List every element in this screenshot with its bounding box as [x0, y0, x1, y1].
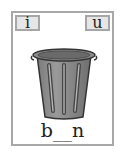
- option-letter: u: [92, 15, 102, 31]
- word-with-blank: b__n: [13, 119, 112, 141]
- trash-bin-icon: [29, 45, 99, 121]
- option-i-button[interactable]: i: [15, 15, 40, 31]
- option-letter: i: [25, 15, 30, 31]
- phonics-card: i u b__n: [11, 11, 114, 146]
- option-u-button[interactable]: u: [85, 15, 110, 31]
